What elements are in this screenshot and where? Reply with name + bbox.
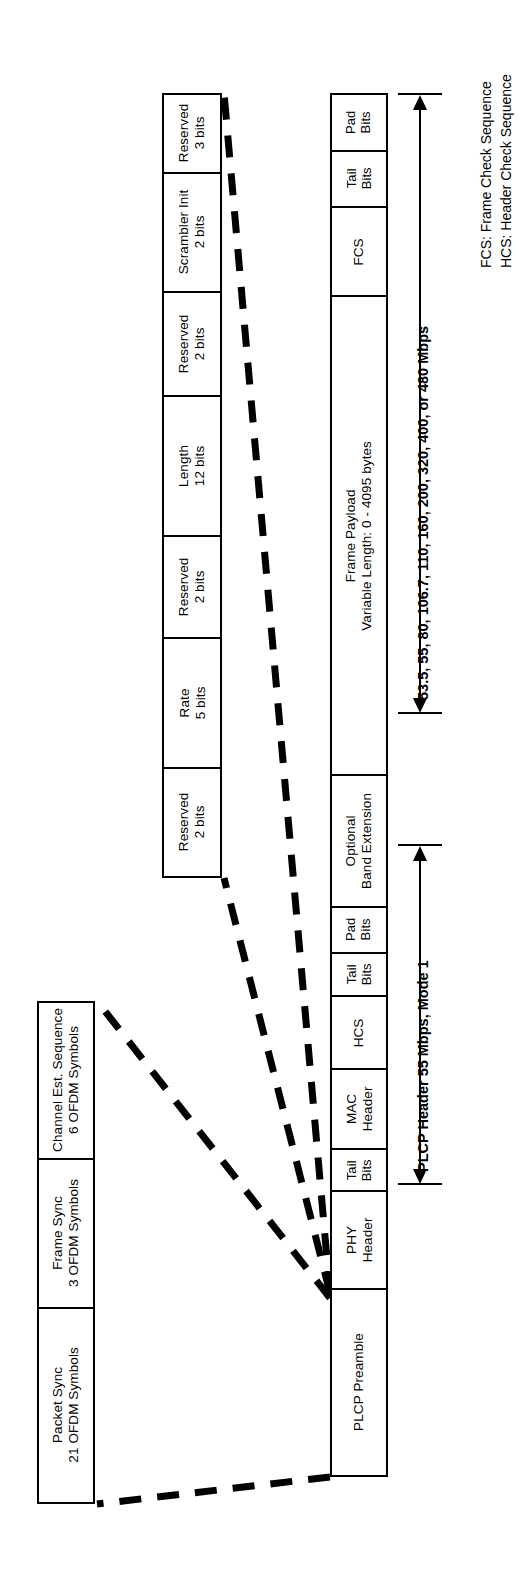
phy-header-field-label-line2: 2 bits bbox=[192, 558, 208, 617]
phy-header-field-label-line1: Reserved bbox=[176, 315, 191, 374]
phy-header-field-label: Length12 bits bbox=[176, 445, 208, 487]
frame-cell: PHYHeader bbox=[332, 1192, 386, 1290]
preamble-label-line1: Frame Sync bbox=[50, 1196, 65, 1270]
preamble-label-line1: Packet Sync bbox=[50, 1367, 65, 1443]
phy-header-field-cell: Reserved2 bits bbox=[164, 537, 220, 639]
frame-label: TailBits bbox=[344, 1159, 375, 1181]
frame-label: TailBits bbox=[344, 168, 375, 190]
phy-header-field-label-line2: 12 bits bbox=[192, 445, 208, 487]
frame-label-line1: Pad bbox=[344, 918, 359, 941]
phy-header-field-cell: Rate5 bits bbox=[164, 639, 220, 768]
preamble-cell: Packet Sync21 OFDM Symbols bbox=[39, 1309, 93, 1502]
phy-header-field-label: Scrambler Init2 bits bbox=[176, 190, 208, 275]
frame-label-line1: HCS bbox=[351, 1018, 366, 1047]
phy-header-field-label-line1: Rate bbox=[176, 688, 191, 717]
phy-header-field-label: Reserved2 bits bbox=[176, 558, 208, 617]
frame-cell: HCS bbox=[332, 997, 386, 1070]
frame-label-line2: Header bbox=[359, 1087, 375, 1132]
phy-header-field-label-line2: 3 bits bbox=[192, 104, 208, 163]
preamble-label: Channel Est. Sequence6 OFDM Symbols bbox=[50, 1008, 82, 1152]
frame-label-line1: FCS bbox=[351, 238, 366, 265]
frame-label-line1: Optional bbox=[343, 815, 358, 866]
preamble-label: Packet Sync21 OFDM Symbols bbox=[50, 1348, 82, 1464]
phy-header-field-label-line2: 2 bits bbox=[192, 793, 208, 852]
preamble-label-line2: 21 OFDM Symbols bbox=[66, 1348, 82, 1464]
frame-label-line2: Bits bbox=[359, 918, 374, 941]
phy-header-field-label-line2: 2 bits bbox=[192, 190, 208, 275]
legend-item-fcs: FCS: Frame Check Sequence bbox=[476, 74, 496, 268]
frame-cell: PLCP Preamble bbox=[332, 1290, 386, 1475]
phy-header-field-cell: Scrambler Init2 bits bbox=[164, 174, 220, 293]
frame-label-line1: Pad bbox=[344, 111, 359, 134]
frame-cell: TailBits bbox=[332, 1150, 386, 1192]
phy-header-field-cell: Length12 bits bbox=[164, 397, 220, 536]
preamble-label-line2: 3 OFDM Symbols bbox=[66, 1179, 82, 1287]
phy-header-field-label-line1: Reserved bbox=[176, 793, 191, 852]
phy-header-field-label-line2: 5 bits bbox=[192, 686, 208, 719]
frame-label-line2: Header bbox=[359, 1217, 375, 1262]
frame-label: Frame PayloadVariable Length: 0 - 4095 b… bbox=[343, 441, 375, 631]
preamble-label: Frame Sync3 OFDM Symbols bbox=[50, 1179, 82, 1287]
frame-label: OptionalBand Extension bbox=[343, 793, 375, 889]
frame-cell: PadBits bbox=[332, 95, 386, 152]
frame-label: PadBits bbox=[344, 918, 375, 941]
frame-label-line2: Bits bbox=[359, 111, 374, 134]
frame-label-line1: Tail bbox=[344, 169, 359, 189]
frame-cell: TailBits bbox=[332, 954, 386, 998]
frame-label: HCS bbox=[351, 1018, 367, 1047]
frame-label-line1: Tail bbox=[344, 964, 359, 984]
frame-label-line2: Bits bbox=[359, 1159, 374, 1181]
phy-header-field-label-line1: Length bbox=[176, 445, 191, 487]
preamble-label-line1: Channel Est. Sequence bbox=[50, 1008, 65, 1152]
phy-header-field-label-line1: Reserved bbox=[176, 558, 191, 617]
phy-header-field-label: Reserved2 bits bbox=[176, 315, 208, 374]
frame-row: PadBitsTailBitsFCSFrame PayloadVariable … bbox=[330, 93, 388, 1477]
preamble-cell: Channel Est. Sequence6 OFDM Symbols bbox=[39, 1003, 93, 1160]
frame-label-line1: MAC bbox=[343, 1094, 358, 1124]
phy-header-field-cell: Reserved2 bits bbox=[164, 769, 220, 876]
frame-label: MACHeader bbox=[343, 1087, 375, 1132]
phy-header-field-label: Reserved2 bits bbox=[176, 793, 208, 852]
preamble-detail-row: Channel Est. Sequence6 OFDM SymbolsFrame… bbox=[37, 1001, 95, 1504]
frame-label: PadBits bbox=[344, 111, 375, 134]
frame-cell: TailBits bbox=[332, 152, 386, 208]
phy-header-field-label: Reserved3 bits bbox=[176, 104, 208, 163]
payload-rate-annotation: 53.5, 55, 80, 106.7, 110, 160, 200, 320,… bbox=[414, 326, 433, 700]
frame-label: TailBits bbox=[344, 963, 375, 985]
frame-label-line1: Tail bbox=[344, 1160, 359, 1180]
legend-item-hcs: HCS: Header Check Sequence bbox=[496, 74, 516, 268]
frame-cell: FCS bbox=[332, 208, 386, 298]
phy-header-field-cell: Reserved2 bits bbox=[164, 293, 220, 397]
phy-header-field-row: Reserved3 bitsScrambler Init2 bitsReserv… bbox=[162, 93, 222, 878]
phy-header-field-label-line2: 2 bits bbox=[192, 315, 208, 374]
frame-label-line2: Bits bbox=[359, 168, 374, 190]
phy-header-field-cell: Reserved3 bits bbox=[164, 95, 220, 174]
preamble-label-line2: 6 OFDM Symbols bbox=[66, 1008, 82, 1152]
preamble-cell: Frame Sync3 OFDM Symbols bbox=[39, 1160, 93, 1309]
frame-label: PHYHeader bbox=[343, 1217, 375, 1262]
phy-header-field-label-line1: Reserved bbox=[176, 104, 191, 163]
frame-label-line2: Band Extension bbox=[359, 793, 375, 889]
frame-cell: MACHeader bbox=[332, 1070, 386, 1150]
frame-cell: OptionalBand Extension bbox=[332, 776, 386, 908]
frame-label-line2: Variable Length: 0 - 4095 bytes bbox=[359, 441, 375, 631]
legend: FCS: Frame Check Sequence HCS: Header Ch… bbox=[476, 74, 517, 268]
frame-label: PLCP Preamble bbox=[351, 1333, 367, 1431]
frame-label: FCS bbox=[351, 238, 367, 265]
frame-label-line1: PLCP Preamble bbox=[351, 1333, 366, 1431]
frame-cell: PadBits bbox=[332, 908, 386, 954]
phy-header-field-label-line1: Scrambler Init bbox=[176, 190, 191, 275]
frame-label-line2: Bits bbox=[359, 963, 374, 985]
phy-header-field-label: Rate5 bits bbox=[176, 686, 208, 719]
diagram-canvas: Reserved3 bitsScrambler Init2 bitsReserv… bbox=[0, 0, 527, 1592]
plcp-header-annotation: PLCP Header 55 Mbps, Mode 1 bbox=[414, 960, 433, 1172]
frame-label-line1: PHY bbox=[343, 1226, 358, 1254]
frame-label-line1: Frame Payload bbox=[343, 489, 358, 582]
frame-cell: Frame PayloadVariable Length: 0 - 4095 b… bbox=[332, 297, 386, 776]
